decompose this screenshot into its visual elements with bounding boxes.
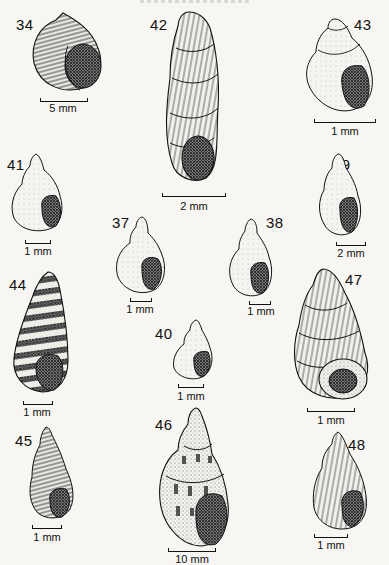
shell-40-icon xyxy=(170,318,220,380)
shell-plate: 34 5 mm 42 2 mm 43 1 mm 41 xyxy=(0,0,389,565)
scale-label: 1 mm xyxy=(317,540,345,551)
scale-label: 5 mm xyxy=(49,103,77,114)
shell-34-icon xyxy=(28,8,108,100)
figure-45: 45 1 mm xyxy=(0,425,90,565)
shell-37-icon xyxy=(112,215,168,297)
shell-47-icon xyxy=(291,265,373,405)
scale-label: 1 mm xyxy=(331,126,359,137)
figure-37: 37 1 mm xyxy=(100,205,180,305)
shell-46-icon xyxy=(154,406,234,551)
figure-47: 47 1 mm xyxy=(285,265,389,425)
shell-45-icon xyxy=(26,425,76,520)
shell-42-icon xyxy=(154,8,234,188)
shell-41-icon xyxy=(8,152,68,237)
figure-43: 43 1 mm xyxy=(300,0,389,140)
figure-48: 48 1 mm xyxy=(300,430,389,565)
figure-34: 34 5 mm xyxy=(0,0,120,110)
scale-label: 2 mm xyxy=(337,248,365,259)
figure-42: 42 2 mm xyxy=(140,0,260,210)
shell-43-icon xyxy=(300,14,380,119)
scale-label: 1 mm xyxy=(23,407,51,418)
figure-41: 41 1 mm xyxy=(0,150,100,250)
scale-label: 1 mm xyxy=(317,415,345,426)
shell-39-icon xyxy=(316,152,366,242)
shell-38-icon xyxy=(227,217,277,299)
shell-48-icon xyxy=(306,430,371,535)
scale-label: 1 mm xyxy=(33,532,61,543)
scale-label: 2 mm xyxy=(180,201,208,212)
scale-label: 1 mm xyxy=(24,246,52,257)
scale-label: 10 mm xyxy=(175,554,209,565)
figure-46: 46 10 mm xyxy=(140,400,260,565)
figure-39: 39 2 mm xyxy=(310,150,389,260)
scale-label: 1 mm xyxy=(247,306,275,317)
scale-label: 1 mm xyxy=(126,304,154,315)
shell-44-icon xyxy=(6,270,72,395)
figure-44: 44 1 mm xyxy=(0,268,90,413)
